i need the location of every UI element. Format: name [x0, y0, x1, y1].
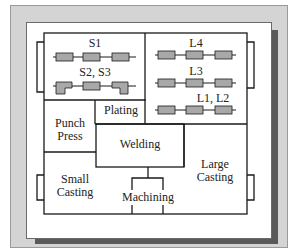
s1-machine-1 — [56, 53, 73, 61]
label-l1-l2: L1, L2 — [190, 92, 236, 105]
door-s-area — [37, 42, 44, 92]
label-small-casting: Casting — [50, 186, 100, 199]
label-machining: Machining — [118, 191, 178, 204]
door-l-area — [247, 42, 254, 88]
label-large-casting: Casting — [190, 171, 240, 184]
s23-machine-1 — [56, 82, 72, 94]
label-l4: L4 — [181, 37, 211, 50]
label-l3: L3 — [181, 65, 211, 78]
s23-machine-2 — [83, 82, 100, 90]
door-large-casting — [247, 175, 254, 200]
s1-machine-3 — [112, 53, 129, 61]
label-s2-s3: S2, S3 — [72, 66, 118, 79]
label-press: Press — [48, 130, 92, 143]
label-plating: Plating — [98, 104, 144, 117]
label-s1: S1 — [80, 37, 110, 50]
door-small-casting — [37, 175, 44, 200]
s23-machine-3 — [112, 82, 128, 94]
s1-machine-2 — [83, 53, 100, 61]
floor-plan — [0, 0, 292, 251]
label-welding: Welding — [110, 138, 170, 151]
machining-bracket-top — [132, 178, 163, 190]
